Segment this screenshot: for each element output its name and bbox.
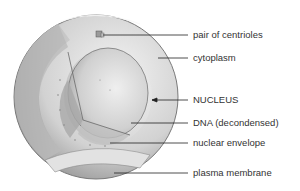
label-plasma-membrane: plasma membrane: [193, 168, 272, 178]
label-centrioles: pair of centrioles: [193, 30, 263, 40]
label-nucleus: NUCLEUS: [193, 95, 238, 105]
label-dna: DNA (decondensed): [193, 118, 279, 128]
label-nuclear-envelope: nuclear envelope: [193, 138, 265, 148]
label-cytoplasm: cytoplasm: [193, 53, 236, 63]
